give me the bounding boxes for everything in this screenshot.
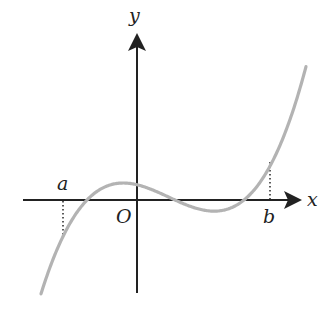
point-a-label: a: [57, 172, 68, 194]
x-axis-label: x: [307, 188, 318, 210]
y-axis-label: y: [128, 4, 140, 26]
origin-label: O: [116, 205, 132, 227]
function-graph: y x O a b: [0, 0, 333, 313]
point-b-label: b: [263, 205, 275, 227]
cubic-curve: [41, 67, 306, 294]
